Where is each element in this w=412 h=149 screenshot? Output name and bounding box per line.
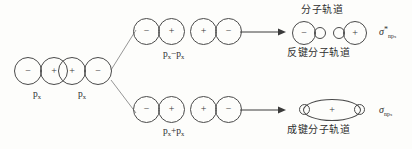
- branch-line-up: [111, 30, 136, 70]
- reactant-left-label: px: [33, 90, 41, 100]
- sigma-antibonding-symbol: σ*npx: [379, 27, 396, 37]
- lobe-sign: −: [226, 104, 232, 114]
- p-subscript-2: x: [181, 53, 184, 60]
- sigma-subscript-wrap: npx: [388, 33, 396, 39]
- sigma-subscript-2: x: [394, 34, 396, 39]
- lobe-sign: +: [69, 66, 75, 76]
- p-subscript: x: [83, 93, 86, 100]
- lobe-sign: +: [169, 26, 175, 36]
- lobe-sign: −: [144, 26, 150, 36]
- lobe-sign: −: [226, 26, 232, 36]
- molecular-orbital-title: 分子轨道: [301, 5, 343, 15]
- sigma-subscript-2: x: [390, 112, 392, 117]
- bottom-branch-pairB-lobe-2: −: [215, 96, 242, 123]
- p-subscript-2: x: [181, 130, 184, 137]
- top-branch-pairA-lobe-2: +: [158, 18, 185, 45]
- antibonding-lobe-large-right: +: [343, 21, 367, 45]
- bonding-caption: 成键分子轨道: [287, 125, 350, 135]
- bottom-branch-pairA-lobe-2: +: [158, 96, 185, 123]
- lobe-sign: −: [144, 104, 150, 114]
- orbital-diagram-figure: − + px + − px − + + − px−px − + + − px: [0, 0, 412, 149]
- arrow-head-bottom: [278, 107, 286, 114]
- lobe-sign: +: [201, 26, 207, 36]
- lobe-sign: +: [352, 28, 358, 38]
- reactant-right-lobe-2: −: [84, 57, 112, 85]
- arrow-head-top: [278, 29, 286, 36]
- top-branch-pairA-lobe-1: −: [133, 18, 160, 45]
- bottom-branch-pairB-lobe-1: +: [190, 96, 217, 123]
- top-branch-pairB-lobe-1: +: [190, 18, 217, 45]
- reactant-left-lobe-1: −: [14, 57, 42, 85]
- antibonding-lobe-small-left: [314, 27, 326, 39]
- reactant-right-label: px: [78, 90, 86, 100]
- lobe-sign: −: [95, 66, 101, 76]
- top-branch-pairB-lobe-2: −: [215, 18, 242, 45]
- bonding-lobe-small-left: [299, 104, 310, 115]
- bottom-branch-combination-label: px+px: [163, 127, 184, 137]
- top-branch-combination-label: px−px: [163, 50, 184, 60]
- lobe-sign: +: [201, 104, 207, 114]
- reactant-right-lobe-1: +: [58, 57, 86, 85]
- sigma-bonding-symbol: σnpx: [379, 105, 392, 115]
- lobe-sign: −: [301, 28, 307, 38]
- antibonding-lobe-large-left: −: [292, 21, 316, 45]
- p-subscript: x: [168, 53, 171, 60]
- sigma-subscript-wrap: npx: [384, 111, 392, 117]
- bonding-mo-ellipse: +: [303, 99, 361, 121]
- lobe-sign: +: [51, 66, 57, 76]
- p-subscript: x: [38, 93, 41, 100]
- lobe-sign: −: [25, 66, 31, 76]
- bonding-lobe-small-right: [354, 104, 365, 115]
- lobe-sign: +: [329, 104, 335, 115]
- antibonding-caption: 反键分子轨道: [287, 48, 350, 58]
- lobe-sign: +: [169, 104, 175, 114]
- p-subscript: x: [168, 130, 171, 137]
- bottom-branch-pairA-lobe-1: −: [133, 96, 160, 123]
